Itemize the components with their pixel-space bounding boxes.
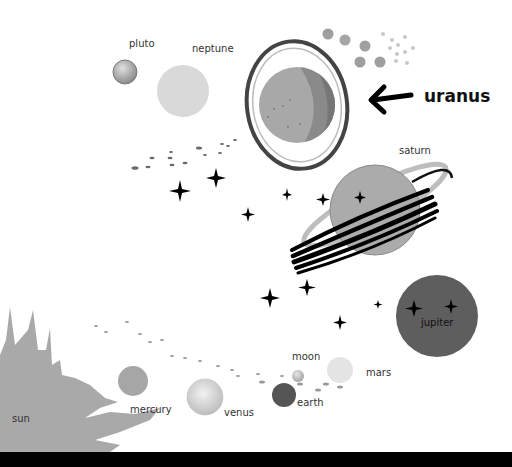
label-mars: mars: [366, 367, 391, 378]
planet-pluto[interactable]: [113, 60, 137, 84]
label-uranus: uranus: [424, 86, 490, 106]
asteroid-belt: [132, 139, 238, 170]
star-icon: [169, 180, 191, 202]
planet-uranus[interactable]: [239, 35, 356, 176]
label-mercury: mercury: [130, 404, 172, 415]
moon[interactable]: [292, 370, 304, 382]
bottom-bar: [0, 452, 512, 467]
star-icon: [282, 188, 292, 201]
solar-system-scene: pluto neptune uranus saturn jupiter moon…: [0, 0, 512, 452]
star-icon: [260, 288, 280, 308]
label-pluto: pluto: [129, 38, 155, 49]
star-icon: [374, 300, 383, 309]
planet-jupiter[interactable]: [396, 275, 478, 357]
planet-saturn[interactable]: [292, 152, 454, 273]
label-jupiter: jupiter: [421, 317, 453, 328]
dot-cluster: [323, 29, 416, 68]
planet-earth[interactable]: [272, 383, 296, 407]
planet-neptune[interactable]: [157, 65, 209, 117]
label-moon: moon: [292, 351, 320, 362]
label-saturn: saturn: [399, 145, 431, 156]
arrow-icon: [371, 87, 411, 112]
label-sun: sun: [12, 413, 30, 424]
star-icon: [241, 207, 255, 222]
star-icon: [333, 315, 347, 330]
planet-mercury[interactable]: [118, 366, 148, 396]
planet-mars[interactable]: [327, 357, 353, 383]
label-neptune: neptune: [192, 43, 234, 54]
star-icon: [316, 193, 330, 206]
planet-venus[interactable]: [187, 379, 223, 415]
star-icon: [298, 279, 316, 296]
label-earth: earth: [297, 397, 324, 408]
star-icon: [206, 168, 226, 188]
label-venus: venus: [224, 407, 254, 418]
